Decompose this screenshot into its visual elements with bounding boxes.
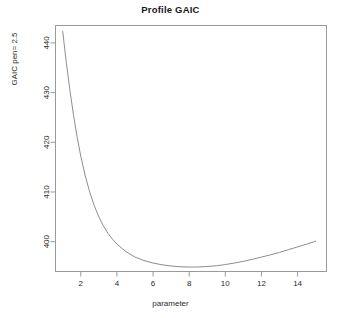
- y-tick-label: 420: [42, 135, 51, 149]
- chart-page: Profile GAIC 400410420430440 2468101214 …: [0, 0, 341, 318]
- y-tick-label: 400: [42, 234, 51, 248]
- x-tick-label: 8: [187, 279, 192, 288]
- x-axis-label: parameter: [0, 299, 341, 308]
- x-tick-label: 10: [221, 279, 230, 288]
- x-tick-label: 12: [257, 279, 266, 288]
- y-axis-ticks: 400410420430440: [42, 36, 56, 249]
- plot-area: 400410420430440 2468101214: [0, 0, 341, 318]
- plot-box-border: [56, 26, 327, 272]
- y-tick-label: 440: [42, 36, 51, 50]
- x-tick-label: 6: [151, 279, 156, 288]
- gaic-profile-curve: [63, 31, 316, 267]
- y-tick-label: 410: [42, 185, 51, 199]
- x-tick-label: 2: [79, 279, 84, 288]
- y-axis-label: GAIC pen= 2.5: [10, 14, 19, 104]
- x-tick-label: 14: [293, 279, 302, 288]
- plot-svg: 400410420430440 2468101214: [0, 0, 341, 318]
- x-axis-ticks: 2468101214: [79, 272, 303, 288]
- y-tick-label: 430: [42, 85, 51, 99]
- x-tick-label: 4: [115, 279, 120, 288]
